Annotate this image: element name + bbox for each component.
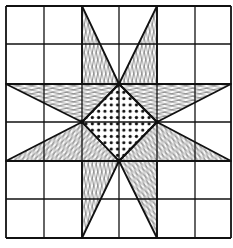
quilt-block-diagram (0, 0, 233, 248)
vertex-dot (155, 120, 159, 124)
vertex-dot (117, 82, 121, 86)
vertex-dot (117, 159, 121, 163)
vertex-dot (80, 120, 84, 124)
